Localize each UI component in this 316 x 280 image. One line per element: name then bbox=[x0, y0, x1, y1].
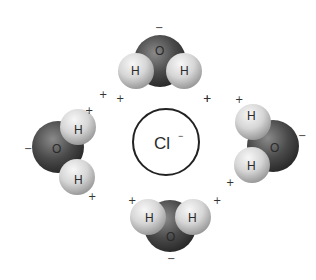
oxygen-label: O bbox=[270, 141, 279, 155]
ion-charge: − bbox=[178, 131, 183, 141]
hydrogen-label: H bbox=[188, 211, 197, 225]
water-molecule-top: − O H H + + bbox=[116, 22, 211, 104]
hydrogen-label: H bbox=[74, 123, 83, 137]
positive-charge-sign: + bbox=[88, 191, 96, 202]
hydrogen-label: H bbox=[180, 64, 189, 78]
positive-charge-sign: + bbox=[213, 195, 221, 206]
hydrogen-label: H bbox=[131, 64, 140, 78]
oxygen-label: O bbox=[166, 230, 175, 244]
positive-charge-sign: + bbox=[235, 94, 243, 105]
negative-charge-sign: − bbox=[298, 130, 306, 141]
positive-charge-sign: + bbox=[203, 93, 211, 104]
positive-charge-sign: + bbox=[226, 177, 234, 188]
oxygen-label: O bbox=[155, 44, 164, 58]
positive-charge-sign: + bbox=[116, 93, 124, 104]
hydrogen-label: H bbox=[247, 109, 256, 123]
hydrogen-label: H bbox=[145, 211, 154, 225]
positive-charge-sign: + bbox=[128, 195, 136, 206]
positive-charge-sign: + bbox=[99, 89, 107, 100]
negative-charge-sign: − bbox=[24, 143, 32, 154]
hydrogen-label: H bbox=[247, 159, 256, 173]
ion-symbol: Cl bbox=[154, 134, 170, 153]
negative-charge-sign: − bbox=[167, 253, 175, 264]
water-molecule-right: O H H − + + + bbox=[203, 93, 306, 188]
oxygen-label: O bbox=[52, 142, 61, 156]
hydration-diagram: Cl − − O H H + + − O H H + + + O H H − +… bbox=[0, 0, 316, 280]
chloride-ion: Cl − bbox=[133, 109, 199, 175]
hydrogen-label: H bbox=[74, 173, 83, 187]
positive-charge-sign: + bbox=[85, 105, 93, 116]
water-molecule-left: − O H H + + + bbox=[24, 89, 107, 202]
water-molecule-bottom: H H O − + + bbox=[128, 195, 221, 264]
negative-charge-sign: − bbox=[155, 22, 163, 33]
